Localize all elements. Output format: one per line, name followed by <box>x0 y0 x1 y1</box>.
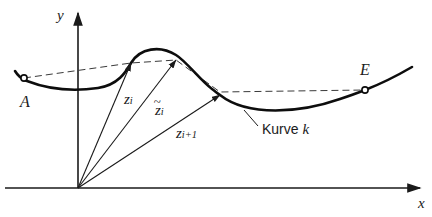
curve-label-symbol: k <box>302 121 309 137</box>
vector-label-z-i: zi <box>124 92 133 107</box>
vector-label-z-i-tilde-sub: i <box>161 106 164 117</box>
y-axis-label: y <box>57 8 64 23</box>
point-marker-a <box>21 75 27 81</box>
curve-label: Kurve k <box>262 122 309 137</box>
vector-label-z-i-plus-1-sub: i+1 <box>182 129 197 140</box>
dashed-chord-polyline <box>24 60 365 92</box>
diagram-svg <box>0 0 432 217</box>
vector-label-z-i-plus-1: zi+1 <box>176 126 197 141</box>
curve-label-text: Kurve <box>262 121 302 137</box>
curve-k <box>15 49 412 110</box>
tilde-accent: ~ <box>154 95 161 108</box>
vector-label-z-i-sub: i <box>130 95 133 106</box>
curve-label-leader-line <box>244 110 258 126</box>
vector-z-i-tilde <box>78 60 176 188</box>
vector-z-i <box>78 63 131 188</box>
vector-z-i-plus-1 <box>78 95 220 188</box>
vector-label-z-i-tilde: ~zi <box>155 103 164 118</box>
figure-canvas: y x A E zi ~zi zi+1 Kurve k <box>0 0 432 217</box>
point-label-e: E <box>360 62 370 78</box>
x-axis-label: x <box>418 196 425 211</box>
point-label-a: A <box>20 94 30 110</box>
tilde-accent-wrap: ~z <box>155 103 161 118</box>
point-marker-e <box>362 87 368 93</box>
